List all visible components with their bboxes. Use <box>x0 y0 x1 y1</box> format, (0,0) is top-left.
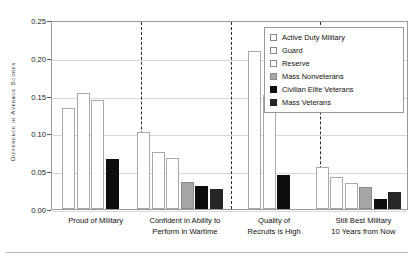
gridline <box>52 211 407 212</box>
x-tick-label: Quality ofRecruits is High <box>230 216 319 237</box>
bar <box>330 177 343 209</box>
legend-item: Mass Nonveterans <box>270 70 399 83</box>
y-tick-mark <box>47 134 51 135</box>
y-tick-label: 0.15 <box>5 92 51 101</box>
legend-item-label: Civilian Elite Veterans <box>282 85 353 94</box>
bar <box>210 189 223 209</box>
gridline <box>52 135 407 136</box>
x-tick-label-line: 10 Years from Now <box>319 227 408 238</box>
bar <box>137 132 150 209</box>
x-tick-label-line: Proud of Military <box>51 216 140 227</box>
y-tick-mark <box>47 21 51 22</box>
bar-chart-figure: Difference in Average Scores 0.250.200.1… <box>0 0 414 261</box>
legend-item: Guard <box>270 44 399 57</box>
x-tick-label-line: Confident in Ability to <box>140 216 229 227</box>
x-tick-label: Proud of Military <box>51 216 140 227</box>
legend-item: Civilian Elite Veterans <box>270 83 399 96</box>
legend-item-label: Guard <box>282 46 303 55</box>
bar <box>181 182 194 209</box>
chart-legend: Active Duty MilitaryGuardReserveMass Non… <box>264 27 404 113</box>
y-tick-mark <box>47 172 51 173</box>
y-tick-label: 0.00 <box>5 206 51 215</box>
legend-swatch-icon <box>270 73 277 80</box>
bar <box>359 187 372 209</box>
legend-item-label: Active Duty Military <box>282 33 345 42</box>
bottom-divider <box>6 252 408 253</box>
bar <box>62 108 75 209</box>
x-tick-label: Confident in Ability toPerform in Wartim… <box>140 216 229 237</box>
y-tick-mark <box>47 210 51 211</box>
legend-item: Reserve <box>270 57 399 70</box>
x-tick-label-line: Recruits is High <box>230 227 319 238</box>
bar <box>152 152 165 209</box>
group-separator <box>231 22 232 209</box>
x-tick-label-line: Still Best Military <box>319 216 408 227</box>
bar <box>277 175 290 209</box>
bar <box>91 100 104 209</box>
y-tick-mark <box>47 97 51 98</box>
bar <box>195 186 208 209</box>
legend-item-label: Mass Nonveterans <box>282 72 344 81</box>
y-tick-label: 0.10 <box>5 130 51 139</box>
legend-swatch-icon <box>270 47 277 54</box>
bar <box>374 199 387 209</box>
legend-item-label: Reserve <box>282 59 310 68</box>
bar <box>106 159 119 209</box>
x-tick-label: Still Best Military10 Years from Now <box>319 216 408 237</box>
x-tick-label-line: Perform in Wartime <box>140 227 229 238</box>
legend-item: Mass Veterans <box>270 96 399 109</box>
bar <box>388 192 401 209</box>
y-tick-label: 0.20 <box>5 54 51 63</box>
bar <box>77 93 90 209</box>
legend-item-label: Mass Veterans <box>282 98 331 107</box>
y-tick-label: 0.05 <box>5 168 51 177</box>
y-tick-label: 0.25 <box>5 17 51 26</box>
legend-swatch-icon <box>270 86 277 93</box>
bar <box>166 158 179 209</box>
bar <box>345 183 358 209</box>
legend-swatch-icon <box>270 60 277 67</box>
legend-swatch-icon <box>270 99 277 106</box>
bar <box>316 167 329 209</box>
legend-item: Active Duty Military <box>270 31 399 44</box>
legend-swatch-icon <box>270 34 277 41</box>
bar <box>248 51 261 209</box>
x-tick-label-line: Quality of <box>230 216 319 227</box>
y-tick-mark <box>47 59 51 60</box>
